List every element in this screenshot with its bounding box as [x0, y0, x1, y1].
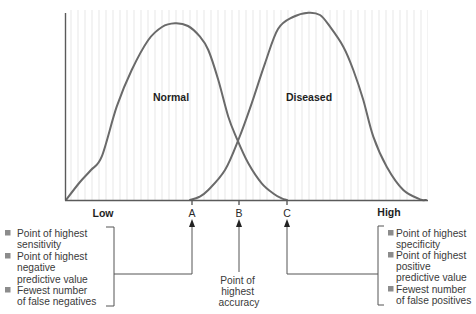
list-item-highest-ppv: Point of highest positive predictive val… — [396, 250, 469, 283]
list-item-highest-specificity: Point of highest specificity — [396, 228, 469, 250]
point-a-label: A — [188, 207, 195, 219]
point-c-label: C — [283, 207, 291, 219]
list-item-fewest-false-negatives: Fewest number of false negatives — [17, 285, 96, 307]
right-annotation-list: Point of highest specificity Point of hi… — [388, 228, 471, 306]
arrow-to-c — [284, 219, 378, 274]
arrowhead-up-icon — [284, 219, 290, 227]
diseased-label: Diseased — [286, 91, 332, 103]
list-item-highest-npv: Point of highest negative predictive val… — [17, 251, 90, 285]
point-b-label: B — [235, 207, 242, 219]
highest-accuracy-annotation: Point of highest accuracy — [219, 275, 261, 308]
arrow-to-a — [114, 219, 195, 274]
left-annotation-list: Point of highest sensitivity Point of hi… — [5, 228, 96, 307]
bullet-square-icon — [5, 287, 11, 293]
arrow-to-b — [236, 219, 242, 272]
right-bracket — [378, 226, 384, 305]
axis-low-label: Low — [93, 207, 115, 219]
bullet-square-icon — [5, 230, 11, 236]
arrowhead-up-icon — [189, 219, 195, 227]
bullet-square-icon — [388, 252, 394, 258]
list-item-highest-sensitivity: Point of highest sensitivity — [17, 228, 90, 250]
bullet-square-icon — [388, 230, 394, 236]
axis-high-label: High — [377, 206, 400, 218]
left-bracket — [106, 227, 114, 306]
list-item-fewest-false-positives: Fewest number of false positives — [396, 284, 471, 306]
bullet-square-icon — [5, 253, 11, 259]
normal-label: Normal — [153, 91, 189, 103]
arrowhead-up-icon — [236, 219, 242, 227]
plot-background — [66, 10, 428, 200]
bullet-square-icon — [388, 286, 394, 292]
diagram-canvas: Normal Diseased Low High A B C Point of … — [0, 0, 476, 314]
